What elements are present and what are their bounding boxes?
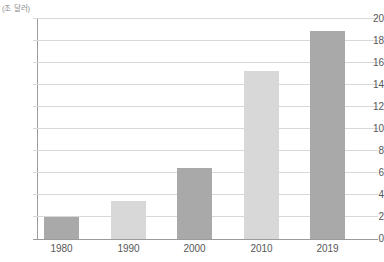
bar-chart: (조 달러) 02468101214161820 198019902000201… [0, 0, 384, 262]
x-tick-label: 2000 [170, 243, 220, 254]
x-tick-label: 1990 [104, 243, 154, 254]
x-tick-label: 2019 [303, 243, 353, 254]
y-tick-label: 16 [353, 57, 384, 69]
gridline [33, 18, 378, 19]
plot-area [37, 19, 378, 239]
x-tick-label: 1980 [37, 243, 87, 254]
y-tick-label: 6 [353, 167, 384, 179]
y-tick-label: 14 [353, 79, 384, 91]
y-tick-label: 12 [353, 101, 384, 113]
y-tick-label: 20 [353, 13, 384, 25]
x-tick-label: 2010 [237, 243, 287, 254]
bar-2019 [310, 31, 345, 239]
y-tick-label: 18 [353, 35, 384, 47]
bar-2010 [244, 71, 279, 239]
x-axis-line [33, 239, 378, 240]
bar-1990 [111, 201, 146, 240]
bar-1980 [44, 217, 79, 239]
y-tick-label: 8 [353, 145, 384, 157]
y-tick-label: 2 [353, 211, 384, 223]
y-tick-label: 10 [353, 123, 384, 135]
y-tick-label: 4 [353, 189, 384, 201]
bar-2000 [177, 168, 212, 240]
y-axis-unit-label: (조 달러) [2, 2, 30, 13]
